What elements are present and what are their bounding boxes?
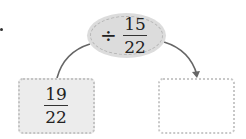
arrowhead-icon <box>192 71 200 78</box>
fraction-bar <box>123 35 147 36</box>
input-denominator: 22 <box>45 108 67 126</box>
operation-numerator: 15 <box>124 15 146 33</box>
operation-denominator: 22 <box>124 38 146 56</box>
input-box: 19 22 <box>18 78 95 134</box>
answer-box[interactable] <box>158 78 235 134</box>
divide-operator: ÷ <box>100 22 117 48</box>
left-connector <box>57 44 90 78</box>
right-arrow <box>164 42 197 75</box>
input-numerator: 19 <box>45 85 67 103</box>
operation-fraction: 15 22 <box>123 15 147 56</box>
input-fraction: 19 22 <box>44 85 68 126</box>
fraction-bar <box>44 105 68 106</box>
